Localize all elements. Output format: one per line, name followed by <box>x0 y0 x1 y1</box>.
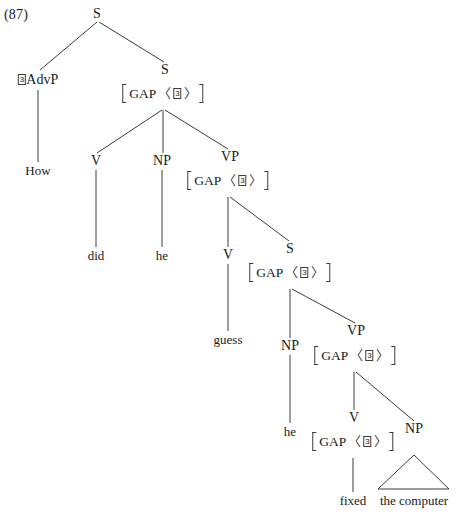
bracket-right-icon <box>265 171 269 190</box>
angle-open-icon: 〈 <box>223 174 236 187</box>
syntax-tree-figure: (87) S 3AdvP How <box>0 0 461 512</box>
branch-s1-to-v <box>97 110 162 153</box>
angle-close-icon: 〉 <box>184 87 197 100</box>
leaf-did: did <box>88 249 105 262</box>
node-gap-s2: GAP 〈 3 〉 <box>249 263 330 285</box>
index-box-gap-vp2: 3 <box>365 350 373 361</box>
node-advp-label: AdvP <box>26 72 58 87</box>
node-v-did: V <box>91 154 101 168</box>
gap-label: GAP <box>319 435 346 449</box>
leaf-he-1: he <box>156 249 168 262</box>
leaf-guess: guess <box>214 333 243 346</box>
angle-open-icon: 〈 <box>348 435 361 448</box>
branch-root-to-advp <box>40 22 97 70</box>
bracket-right-icon <box>327 263 331 282</box>
angle-close-icon: 〉 <box>376 349 389 362</box>
bracket-right-icon <box>200 84 204 103</box>
angle-open-icon: 〈 <box>158 87 171 100</box>
node-v-fixed: V <box>349 411 359 425</box>
angle-open-icon: 〈 <box>350 349 363 362</box>
angle-open-icon: 〈 <box>285 266 298 279</box>
node-gap-s1: GAP 〈 3 〉 <box>122 84 203 106</box>
index-box-gap-s1: 3 <box>173 88 181 99</box>
node-s-embedded-1: S <box>161 63 169 77</box>
node-vp-1: VP <box>221 150 239 164</box>
gap-label: GAP <box>194 174 221 188</box>
branch-s1-to-vp <box>165 110 228 149</box>
node-advp: 3AdvP <box>18 73 58 87</box>
bracket-right-icon <box>390 432 394 451</box>
index-box-gap-v-fixed: 3 <box>363 436 371 447</box>
node-gap-vp1: GAP 〈 3 〉 <box>187 171 268 193</box>
angle-close-icon: 〉 <box>249 174 262 187</box>
index-box-gap-vp1: 3 <box>238 175 246 186</box>
node-gap-v-fixed: GAP 〈 3 〉 <box>312 432 393 454</box>
leaf-he-2: he <box>284 425 296 438</box>
node-vp-2: VP <box>347 324 365 338</box>
angle-close-icon: 〉 <box>374 435 387 448</box>
branch-root-to-s1 <box>99 22 164 62</box>
index-box-gap-s2: 3 <box>300 267 308 278</box>
node-np-computer: NP <box>405 422 423 436</box>
leaf-fixed: fixed <box>340 494 367 507</box>
np-triangle <box>378 455 449 489</box>
node-s-embedded-2: S <box>286 242 294 256</box>
leaf-the-computer: the computer <box>380 494 448 507</box>
example-number: (87) <box>4 8 28 22</box>
branch-vp2-to-np <box>356 372 414 421</box>
branch-vp1-to-s2 <box>230 197 289 241</box>
angle-close-icon: 〉 <box>311 266 324 279</box>
gap-label: GAP <box>129 87 156 101</box>
bracket-right-icon <box>392 346 396 365</box>
node-np-he-1: NP <box>153 154 171 168</box>
branch-s2-to-vp2 <box>292 289 355 323</box>
leaf-how: How <box>25 164 50 177</box>
node-v-guess: V <box>223 248 233 262</box>
node-gap-vp2: GAP 〈 3 〉 <box>314 346 395 368</box>
gap-label: GAP <box>321 349 348 363</box>
node-np-he-2: NP <box>281 339 299 353</box>
node-s-root: S <box>93 7 101 21</box>
gap-label: GAP <box>256 266 283 280</box>
